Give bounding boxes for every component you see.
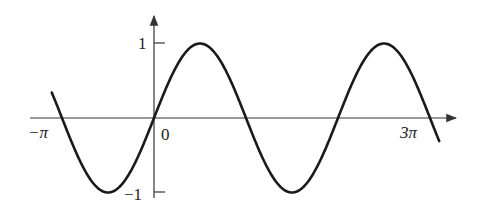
x-tick-label-3pi: 3π xyxy=(400,124,417,141)
x-tick-label-neg-pi: −π xyxy=(28,124,48,141)
sine-plot xyxy=(0,0,479,215)
y-tick-label-neg1: −1 xyxy=(124,186,142,203)
x-tick-label-zero: 0 xyxy=(161,126,170,143)
y-tick-label-1: 1 xyxy=(138,35,147,52)
